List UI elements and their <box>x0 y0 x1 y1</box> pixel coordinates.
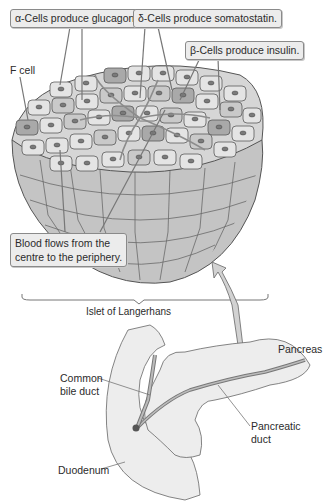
f-cell-label: F cell <box>10 64 35 77</box>
alpha-cells-callout: α-Cells produce glucagon. <box>10 9 142 28</box>
common-bile-duct-line1: Common <box>60 372 103 385</box>
ampulla <box>133 425 140 432</box>
pancreatic-duct-line1: Pancreatic <box>251 420 301 433</box>
delta-cells-callout: δ-Cells produce somatostatin. <box>133 9 282 28</box>
islet-diagram: α-Cells produce glucagon. δ-Cells produc… <box>0 0 327 503</box>
duodenum-label: Duodenum <box>58 464 109 477</box>
beta-cells-callout: β-Cells produce insulin. <box>185 41 304 60</box>
blood-flow-callout: Blood flows from the centre to the perip… <box>10 233 127 267</box>
blood-flow-line2: centre to the periphery. <box>15 250 122 264</box>
pancreatic-duct-line2: duct <box>251 433 301 446</box>
islet-label: Islet of Langerhans <box>86 305 171 318</box>
blood-flow-line1: Blood flows from the <box>15 236 122 250</box>
pancreas-label: Pancreas <box>278 343 322 356</box>
pancreatic-duct-label: Pancreatic duct <box>251 420 301 446</box>
common-bile-duct-label: Common bile duct <box>60 372 103 398</box>
common-bile-duct-line2: bile duct <box>60 385 103 398</box>
